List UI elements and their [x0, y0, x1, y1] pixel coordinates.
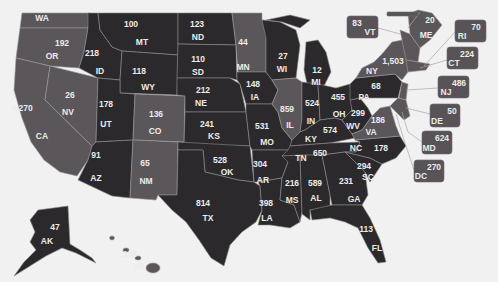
state-label: AK	[41, 236, 54, 246]
state-label: OR	[46, 51, 59, 61]
state-value: 814	[196, 198, 210, 208]
state-value: 44	[238, 37, 248, 47]
state-label: HI	[135, 261, 144, 271]
state-value: 20	[425, 15, 435, 25]
callout-label: NJ	[441, 87, 452, 97]
state-value: 294	[357, 161, 371, 171]
state-value: 4,270	[11, 103, 33, 113]
state-value: 100	[124, 19, 138, 29]
state-value: 186	[371, 115, 385, 125]
callout-label: DE	[431, 116, 443, 126]
state-label: AZ	[90, 173, 101, 183]
state-value: 455	[331, 92, 345, 102]
state-value: 148	[246, 79, 260, 89]
state-value: 26	[65, 90, 75, 100]
state-label: TN	[295, 153, 306, 163]
state-value: 231	[339, 176, 353, 186]
leader-line-vt	[378, 28, 400, 34]
state-label: ID	[96, 66, 105, 76]
state-hi[interactable]	[146, 263, 160, 273]
state-label: IN	[307, 116, 316, 126]
state-value: 241	[200, 119, 214, 129]
state-value: 304	[253, 159, 267, 169]
state-sd[interactable]	[177, 44, 237, 80]
state-value: 212	[196, 85, 210, 95]
state-label: MI	[311, 77, 320, 87]
state-value: 524	[305, 98, 319, 108]
state-value: 27	[278, 51, 288, 61]
state-label: OH	[333, 109, 346, 119]
state-label: SD	[192, 67, 204, 77]
state-value: 136	[149, 109, 163, 119]
callout-label: RI	[458, 31, 467, 41]
callout-value: 70	[471, 22, 481, 32]
state-ne[interactable]	[177, 78, 246, 112]
state-label: NC	[350, 143, 362, 153]
callout-value: 50	[447, 106, 457, 116]
callout-box-top	[387, 12, 418, 16]
us-map: WA 192 OR 4,270 CA 26 NV 218 ID 100 MT 1…	[0, 0, 498, 282]
callout-label: DC	[415, 171, 427, 181]
state-value: 192	[55, 38, 69, 48]
callout-label: VT	[365, 27, 377, 37]
state-value: 118	[132, 66, 146, 76]
state-value: 65	[140, 158, 150, 168]
state-label: ND	[192, 32, 204, 42]
state-value: 138	[123, 249, 137, 259]
state-nm[interactable]	[130, 140, 178, 200]
state-value: 218	[85, 48, 99, 58]
state-value: 650	[313, 148, 327, 158]
state-label: LA	[261, 213, 272, 223]
state-value: 178	[374, 143, 388, 153]
state-value: 123	[190, 19, 204, 29]
state-label: WA	[35, 13, 49, 23]
state-value: 68	[371, 81, 381, 91]
state-value: 110	[191, 54, 205, 64]
state-value: 216	[285, 178, 299, 188]
state-nd[interactable]	[178, 13, 236, 45]
state-label: UT	[100, 119, 112, 129]
state-fl[interactable]	[310, 205, 386, 263]
state-label: NM	[139, 176, 152, 186]
state-label: FL	[372, 243, 382, 253]
state-label: NE	[195, 98, 207, 108]
callout-label: CT	[448, 58, 460, 68]
state-label: KY	[305, 134, 317, 144]
leader-line-nj	[406, 88, 438, 90]
callout-value: 624	[435, 133, 449, 143]
state-value: 91	[91, 150, 101, 160]
state-label: TX	[203, 213, 214, 223]
callout-value: 486	[452, 78, 466, 88]
state-value: 398	[259, 198, 273, 208]
state-label: KS	[208, 131, 220, 141]
state-label: GA	[348, 194, 361, 204]
callout-value: 270	[427, 162, 441, 172]
state-hi-island	[110, 236, 115, 240]
state-label: SC	[362, 172, 374, 182]
state-label: ME	[420, 30, 433, 40]
state-value: 299	[351, 108, 365, 118]
state-label: PA	[358, 92, 369, 102]
state-label: VA	[365, 127, 376, 137]
state-label: WV	[346, 121, 360, 131]
state-value: 531	[255, 121, 269, 131]
state-label: WY	[141, 82, 155, 92]
state-label: MN	[236, 62, 249, 72]
callout-value: 224	[460, 49, 474, 59]
state-value: 178	[99, 99, 113, 109]
state-value: 47	[50, 222, 60, 232]
state-label: MT	[136, 37, 149, 47]
callout-value: 83	[352, 18, 362, 28]
state-ak[interactable]	[14, 206, 96, 276]
state-label: WI	[277, 64, 287, 74]
state-label: CA	[36, 131, 48, 141]
callout-label: MD	[422, 143, 435, 153]
state-value: 528	[213, 155, 227, 165]
state-wa[interactable]	[20, 13, 90, 28]
state-value: 1,503	[382, 56, 404, 66]
state-label: MS	[286, 195, 299, 205]
state-value: 113	[359, 224, 373, 234]
state-label: NY	[366, 66, 378, 76]
state-value: 859	[280, 104, 294, 114]
state-value: 12	[312, 65, 322, 75]
